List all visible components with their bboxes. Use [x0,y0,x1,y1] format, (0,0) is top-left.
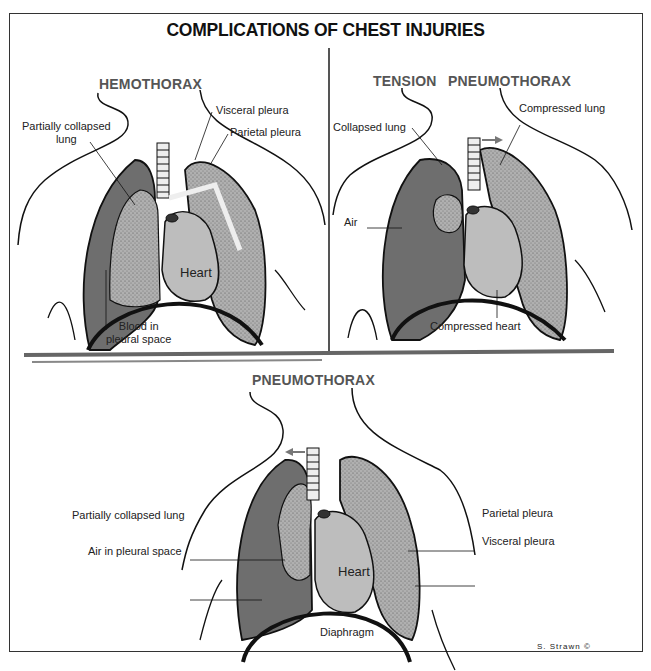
label-compressed-heart: Compressed heart [430,320,521,333]
pneumothorax-title-top: PNEUMOTHORAX [448,73,571,89]
label-collapsed-lung: Collapsed lung [333,121,406,134]
tension-title: TENSION [373,73,437,89]
horizontal-divider [24,351,614,355]
label-blood-in-pleural-space: Blood in pleural space [106,320,171,346]
label-air-in-pleural-space: Air in pleural space [88,545,182,558]
label-parietal-pleura: Parietal pleura [230,126,301,139]
anatomy-illustrations [0,0,651,671]
label-diaphragm: Diaphragm [320,626,374,639]
label-compressed-lung: Compressed lung [519,102,605,115]
artist-signature: S. Strawn © [537,642,591,651]
label-heart-2: Heart [338,565,370,578]
label-partially-collapsed-lung-2: Partially collapsed lung [72,509,185,522]
label-air: Air [344,216,357,229]
label-visceral-pleura: Visceral pleura [216,104,289,117]
hemothorax-title: HEMOTHORAX [99,76,202,92]
label-parietal-pleura-2: Parietal pleura [482,507,553,520]
pneumothorax-title: PNEUMOTHORAX [252,372,375,388]
label-partially-collapsed-lung: Partially collapsed lung [22,120,111,146]
label-visceral-pleura-2: Visceral pleura [482,535,555,548]
label-heart: Heart [180,266,212,279]
